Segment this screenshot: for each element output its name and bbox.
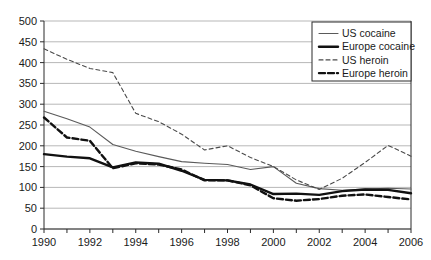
y-tick-label-450: 450 bbox=[19, 36, 37, 48]
y-tick-label-150: 150 bbox=[19, 161, 37, 173]
y-tick-label-400: 400 bbox=[19, 57, 37, 69]
y-tick-label-350: 350 bbox=[19, 77, 37, 89]
x-tick-label-1996: 1996 bbox=[169, 236, 193, 248]
series-line-europe-cocaine bbox=[44, 154, 411, 195]
x-axis-ticks: 199019921994199619982000200220042006 bbox=[32, 229, 423, 248]
x-tick-label-2004: 2004 bbox=[353, 236, 377, 248]
x-tick-label-2000: 2000 bbox=[261, 236, 285, 248]
y-tick-label-100: 100 bbox=[19, 181, 37, 193]
x-tick-label-1998: 1998 bbox=[215, 236, 239, 248]
chart-canvas: 050100150200250300350400450500 199019921… bbox=[0, 0, 431, 260]
y-tick-label-200: 200 bbox=[19, 140, 37, 152]
y-tick-label-300: 300 bbox=[19, 98, 37, 110]
series-line-europe-heroin bbox=[44, 118, 411, 201]
x-tick-label-1990: 1990 bbox=[32, 236, 56, 248]
chart-legend: US cocaineEurope cocaineUS heroinEurope … bbox=[312, 22, 415, 81]
y-tick-label-500: 500 bbox=[19, 15, 37, 27]
y-axis-ticks: 050100150200250300350400450500 bbox=[19, 15, 44, 235]
legend-label-us-cocaine: US cocaine bbox=[342, 27, 396, 39]
x-tick-label-1992: 1992 bbox=[78, 236, 102, 248]
legend-label-europe-cocaine: Europe cocaine bbox=[342, 40, 415, 52]
x-tick-label-1994: 1994 bbox=[124, 236, 148, 248]
y-tick-label-250: 250 bbox=[19, 119, 37, 131]
y-tick-label-50: 50 bbox=[25, 202, 37, 214]
line-chart: 050100150200250300350400450500 199019921… bbox=[0, 0, 431, 260]
y-tick-label-0: 0 bbox=[31, 223, 37, 235]
x-tick-label-2002: 2002 bbox=[307, 236, 331, 248]
x-tick-label-2006: 2006 bbox=[399, 236, 423, 248]
legend-label-europe-heroin: Europe heroin bbox=[342, 67, 408, 79]
legend-label-us-heroin: US heroin bbox=[342, 54, 389, 66]
